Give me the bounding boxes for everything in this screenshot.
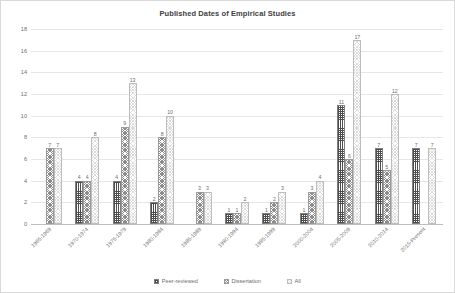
y-axis-tick-label: 8 [24, 134, 27, 140]
bar-value-label: 4 [115, 175, 118, 180]
bar-group: 33 [181, 29, 218, 224]
x-axis-label-slot: 2000-2004 [293, 224, 330, 269]
legend-swatch-icon [154, 279, 159, 284]
bar-value-label: 7 [377, 143, 380, 148]
x-axis-label-slot: 1980-1984 [143, 224, 180, 269]
bar-value-label: 1 [236, 208, 239, 213]
y-axis-tick-label: 10 [21, 113, 27, 119]
bar[interactable]: 17 [353, 40, 361, 224]
legend-item[interactable]: Dissertation [224, 278, 261, 284]
x-axis-label-slot: 1970-1974 [68, 224, 105, 269]
bar[interactable]: 12 [391, 94, 399, 224]
x-axis-label-slot: 2015-Present [406, 224, 443, 269]
bar-group: 123 [256, 29, 293, 224]
plot-area: 024681012141618 774484913281033112123134… [31, 29, 443, 224]
bar[interactable]: 3 [308, 192, 316, 225]
bar-value-label: 1 [302, 208, 305, 213]
bar-value-label: 4 [318, 175, 321, 180]
bar-value-label: 9 [123, 121, 126, 126]
legend-item[interactable]: Peer-reviewed [154, 278, 198, 284]
bar-group: 77 [31, 29, 68, 224]
bar-value-label: 1 [228, 208, 231, 213]
bar-group: 7512 [368, 29, 405, 224]
bar-value-label: 3 [206, 186, 209, 191]
y-axis-tick-label: 0 [24, 221, 27, 227]
legend-label: All [294, 278, 300, 284]
bar-value-label: 3 [310, 186, 313, 191]
bar[interactable]: 11 [337, 105, 345, 224]
bar-value-label: 13 [130, 78, 136, 83]
bar[interactable]: 4 [75, 181, 83, 224]
legend-label: Peer-reviewed [162, 278, 198, 284]
chart-container: Published Dates of Empirical Studies 024… [0, 0, 455, 293]
bar-value-label: 2 [244, 197, 247, 202]
bar-value-label: 11 [339, 100, 344, 105]
bar-value-label: 8 [94, 132, 97, 137]
bar[interactable]: 2 [150, 202, 158, 224]
bar[interactable]: 7 [375, 148, 383, 224]
bar[interactable]: 10 [166, 116, 174, 224]
x-axis-label-slot: 1990-1994 [218, 224, 255, 269]
bar[interactable]: 6 [345, 159, 353, 224]
bar-value-label: 4 [78, 175, 81, 180]
bar-group: 2810 [143, 29, 180, 224]
bar-value-label: 10 [167, 110, 173, 115]
bar[interactable]: 7 [412, 148, 420, 224]
bar[interactable]: 1 [262, 213, 270, 224]
bar[interactable]: 13 [129, 83, 137, 224]
legend-item[interactable]: All [287, 278, 301, 284]
bar-group: 134 [293, 29, 330, 224]
y-axis-tick-label: 16 [21, 48, 27, 54]
bar[interactable]: 8 [91, 137, 99, 224]
bar-value-label: 3 [198, 186, 201, 191]
bar[interactable]: 9 [121, 127, 129, 225]
bar-value-label: 1 [265, 208, 268, 213]
bar-value-label: 5 [385, 165, 388, 170]
x-axis-label-slot: 1995-1999 [256, 224, 293, 269]
bar[interactable]: 7 [46, 148, 54, 224]
x-axis-label-slot: 1975-1979 [106, 224, 143, 269]
bar-value-label: 7 [431, 143, 434, 148]
bar[interactable]: 4 [83, 181, 91, 224]
bar[interactable]: 3 [196, 192, 204, 225]
bar-value-label: 4 [86, 175, 89, 180]
bar[interactable]: 1 [225, 213, 233, 224]
bar[interactable]: 4 [113, 181, 121, 224]
bar-value-label: 2 [273, 197, 276, 202]
bar-group: 77 [406, 29, 443, 224]
x-axis-label-slot: 1965-1969 [31, 224, 68, 269]
chart-title: Published Dates of Empirical Studies [1, 9, 454, 18]
bar-value-label: 12 [392, 89, 398, 94]
y-axis-tick-label: 6 [24, 156, 27, 162]
bar-group: 112 [218, 29, 255, 224]
y-axis-tick-label: 2 [24, 199, 27, 205]
y-axis-tick-label: 4 [24, 178, 27, 184]
bar-value-label: 17 [354, 35, 360, 40]
bar-value-label: 3 [281, 186, 284, 191]
bar-value-label: 8 [161, 132, 164, 137]
legend-label: Dissertation [231, 278, 261, 284]
y-axis-tick-label: 12 [21, 91, 27, 97]
bar[interactable]: 1 [300, 213, 308, 224]
bar[interactable]: 8 [158, 137, 166, 224]
y-axis-tick-label: 18 [21, 26, 27, 32]
bar-value-label: 7 [48, 143, 51, 148]
bar-value-label: 2 [153, 197, 156, 202]
x-axis-label-slot: 1985-1989 [181, 224, 218, 269]
bar-group: 11617 [331, 29, 368, 224]
x-axis-labels: 1965-19691970-19741975-19791980-19841985… [31, 224, 443, 269]
bar-value-label: 6 [348, 154, 351, 159]
bars-layer: 77448491328103311212313411617751277 [31, 29, 443, 224]
x-axis-label-slot: 2005-2009 [331, 224, 368, 269]
bar-value-label: 7 [415, 143, 418, 148]
bar-value-label: 7 [56, 143, 59, 148]
bar[interactable]: 5 [383, 170, 391, 224]
legend-swatch-icon [287, 279, 292, 284]
bar-group: 448 [68, 29, 105, 224]
chart-legend: Peer-reviewedDissertationAll [1, 278, 454, 284]
bar-group: 4913 [106, 29, 143, 224]
legend-swatch-icon [224, 279, 229, 284]
y-axis-tick-label: 14 [21, 69, 27, 75]
